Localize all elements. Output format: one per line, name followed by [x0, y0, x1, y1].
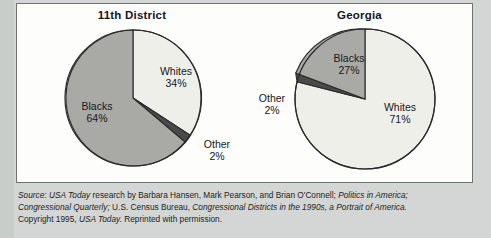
label-other-georgia: Other 2%	[247, 92, 297, 116]
pie-svg-georgia	[294, 28, 436, 170]
caption-copyright: Copyright 1995,	[18, 214, 77, 224]
caption-politics-in-america: Politics in America;	[338, 190, 408, 200]
label-whites-name: Whites	[160, 65, 192, 77]
pie-chart-eleventh-district	[63, 28, 203, 168]
caption-usa-today-1: USA Today	[49, 190, 90, 200]
page-gutter	[0, 0, 14, 238]
panel-title-georgia: Georgia	[247, 9, 472, 21]
caption-permission: Reprinted with permission.	[124, 214, 222, 224]
caption-line-1: Source: USA Today research by Barbara Ha…	[18, 189, 478, 201]
caption-source-label: Source:	[18, 190, 47, 200]
label-whites-eleventh-district: Whites 34%	[146, 65, 206, 89]
label-other-name: Other	[204, 138, 230, 150]
label-whites-georgia: Whites 71%	[369, 101, 431, 125]
label-blacks-eleventh-district: Blacks 64%	[67, 100, 127, 124]
caption-congressional-quarterly: Congressional Quarterly;	[18, 202, 110, 212]
label-other-eleventh-district: Other 2%	[192, 138, 242, 162]
source-caption: Source: USA Today research by Barbara Ha…	[18, 189, 478, 226]
label-other-pct: 2%	[247, 104, 297, 116]
caption-line-3: Copyright 1995, USA Today. Reprinted wit…	[18, 213, 478, 225]
figure-root: 11th District Whites 34% Blacks 64%	[0, 0, 491, 238]
pie-svg-eleventh-district	[63, 28, 203, 168]
caption-congressional-districts: Congressional Districts in the 1990s, a …	[192, 202, 407, 212]
label-whites-pct: 71%	[369, 113, 431, 125]
label-whites-name: Whites	[384, 101, 416, 113]
chart-frame: 11th District Whites 34% Blacks 64%	[16, 3, 473, 183]
label-blacks-georgia: Blacks 27%	[319, 52, 379, 76]
label-blacks-name: Blacks	[334, 52, 365, 64]
label-blacks-pct: 64%	[67, 112, 127, 124]
caption-usa-today-2: USA Today.	[79, 214, 122, 224]
panel-title-eleventh-district: 11th District	[17, 9, 247, 21]
label-whites-pct: 34%	[146, 77, 206, 89]
panel-georgia: Georgia Blacks 27% Whites 71%	[247, 4, 472, 184]
label-blacks-name: Blacks	[82, 100, 113, 112]
caption-census-bureau: U.S. Census Bureau,	[112, 202, 190, 212]
label-other-pct: 2%	[192, 150, 242, 162]
caption-researchers: research by Barbara Hansen, Mark Pearson…	[93, 190, 336, 200]
caption-line-2: Congressional Quarterly; U.S. Census Bur…	[18, 201, 478, 213]
panel-eleventh-district: 11th District Whites 34% Blacks 64%	[17, 4, 247, 184]
label-blacks-pct: 27%	[319, 64, 379, 76]
label-other-name: Other	[259, 92, 285, 104]
pie-chart-georgia	[294, 28, 436, 170]
